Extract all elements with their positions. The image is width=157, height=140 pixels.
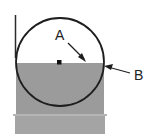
diagram-canvas: A B — [0, 0, 157, 140]
arrow-b-head-icon — [104, 64, 113, 70]
base-block — [15, 116, 105, 134]
center-point — [57, 60, 62, 65]
label-b: B — [134, 67, 143, 83]
label-a: A — [55, 27, 65, 43]
